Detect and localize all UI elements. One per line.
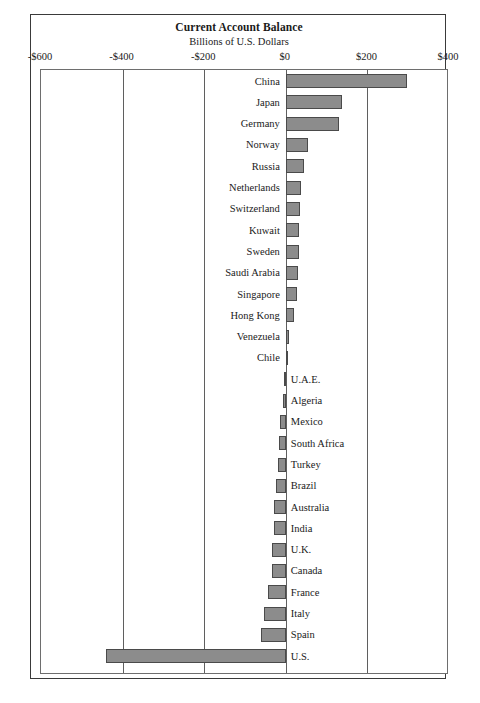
bar-row: Germany bbox=[41, 114, 447, 135]
bar-row: Mexico bbox=[41, 412, 447, 433]
x-tick-3: $0 bbox=[280, 51, 291, 62]
bar-algeria bbox=[283, 394, 286, 408]
bar-row: Russia bbox=[41, 156, 447, 177]
chart-subtitle: Billions of U.S. Dollars bbox=[31, 36, 447, 47]
bar-label: South Africa bbox=[291, 436, 344, 451]
bar-kuwait bbox=[286, 223, 299, 237]
bar-label: Chile bbox=[257, 350, 280, 365]
chart-title: Current Account Balance bbox=[31, 21, 447, 33]
bar-row: Chile bbox=[41, 348, 447, 369]
bar-row: Kuwait bbox=[41, 220, 447, 241]
bar-row: Spain bbox=[41, 625, 447, 646]
bar-label: U.A.E. bbox=[291, 372, 320, 387]
bar-row: China bbox=[41, 71, 447, 92]
bar-italy bbox=[264, 607, 286, 621]
bar-row: U.K. bbox=[41, 540, 447, 561]
bar-label: Norway bbox=[246, 137, 280, 152]
bar-label: Germany bbox=[241, 116, 280, 131]
bar-label: Saudi Arabia bbox=[225, 265, 280, 280]
bar-row: Brazil bbox=[41, 476, 447, 497]
bar-u-s bbox=[106, 649, 286, 663]
bar-row: Norway bbox=[41, 135, 447, 156]
bar-row: Venezuela bbox=[41, 327, 447, 348]
bar-australia bbox=[274, 500, 286, 514]
bar-u-k bbox=[272, 543, 285, 557]
x-tick-0: -$600 bbox=[28, 51, 53, 62]
bar-label: China bbox=[255, 74, 280, 89]
bar-brazil bbox=[276, 479, 286, 493]
bar-label: Brazil bbox=[291, 478, 317, 493]
plot-area: ChinaJapanGermanyNorwayRussiaNetherlands… bbox=[40, 69, 448, 674]
bar-row: Algeria bbox=[41, 391, 447, 412]
bar-row: Italy bbox=[41, 604, 447, 625]
bar-rows: ChinaJapanGermanyNorwayRussiaNetherlands… bbox=[41, 70, 447, 673]
bar-row: Switzerland bbox=[41, 199, 447, 220]
bar-label: Hong Kong bbox=[231, 308, 280, 323]
bar-row: Japan bbox=[41, 92, 447, 113]
x-axis-tick-labels: -$600-$400-$200$0$200$400 bbox=[31, 51, 447, 67]
bar-japan bbox=[286, 95, 342, 109]
bar-label: Kuwait bbox=[249, 223, 280, 238]
bar-label: France bbox=[291, 585, 320, 600]
bar-netherlands bbox=[286, 181, 302, 195]
x-tick-1: -$400 bbox=[109, 51, 134, 62]
bar-singapore bbox=[286, 287, 297, 301]
bar-turkey bbox=[278, 458, 285, 472]
bar-china bbox=[286, 74, 407, 88]
bar-hong-kong bbox=[286, 308, 294, 322]
bar-row: India bbox=[41, 518, 447, 539]
bar-label: Venezuela bbox=[237, 329, 280, 344]
bar-u-a-e bbox=[284, 372, 286, 386]
bar-row: Saudi Arabia bbox=[41, 263, 447, 284]
bar-label: Spain bbox=[291, 627, 315, 642]
bar-row: Singapore bbox=[41, 284, 447, 305]
bar-label: Singapore bbox=[237, 287, 280, 302]
bar-south-africa bbox=[279, 436, 286, 450]
bar-row: Sweden bbox=[41, 241, 447, 262]
chart-figure: Current Account Balance Billions of U.S.… bbox=[30, 14, 446, 679]
bar-row: U.A.E. bbox=[41, 369, 447, 390]
bar-spain bbox=[261, 628, 285, 642]
bar-row: Turkey bbox=[41, 454, 447, 475]
bar-label: Mexico bbox=[291, 414, 323, 429]
bar-norway bbox=[286, 138, 308, 152]
bar-mexico bbox=[280, 415, 285, 429]
bar-label: Netherlands bbox=[229, 180, 280, 195]
bar-label: Italy bbox=[291, 606, 310, 621]
bar-label: U.K. bbox=[291, 542, 311, 557]
bar-row: Hong Kong bbox=[41, 305, 447, 326]
bar-row: U.S. bbox=[41, 646, 447, 667]
bar-russia bbox=[286, 159, 304, 173]
bar-france bbox=[268, 585, 286, 599]
x-tick-2: -$200 bbox=[191, 51, 216, 62]
bar-sweden bbox=[286, 245, 299, 259]
bar-germany bbox=[286, 117, 339, 131]
bar-venezuela bbox=[286, 330, 290, 344]
bar-label: U.S. bbox=[291, 649, 310, 664]
bar-label: Russia bbox=[252, 159, 280, 174]
bar-row: South Africa bbox=[41, 433, 447, 454]
bar-row: Netherlands bbox=[41, 178, 447, 199]
bar-chile bbox=[286, 351, 288, 365]
x-tick-5: $400 bbox=[438, 51, 459, 62]
bar-row: France bbox=[41, 582, 447, 603]
bar-label: Canada bbox=[291, 563, 323, 578]
bar-saudi-arabia bbox=[286, 266, 298, 280]
bar-switzerland bbox=[286, 202, 300, 216]
bar-india bbox=[274, 521, 286, 535]
bar-label: Switzerland bbox=[230, 201, 280, 216]
bar-label: India bbox=[291, 521, 313, 536]
bar-label: Japan bbox=[256, 95, 280, 110]
bar-canada bbox=[272, 564, 286, 578]
bar-label: Turkey bbox=[291, 457, 321, 472]
bar-label: Algeria bbox=[291, 393, 323, 408]
bar-row: Australia bbox=[41, 497, 447, 518]
bar-row: Canada bbox=[41, 561, 447, 582]
x-tick-4: $200 bbox=[356, 51, 377, 62]
bar-label: Sweden bbox=[247, 244, 280, 259]
bar-label: Australia bbox=[291, 500, 330, 515]
